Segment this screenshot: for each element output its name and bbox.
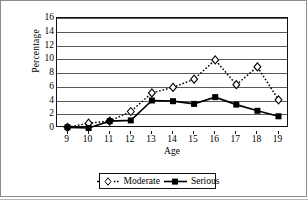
data-point-moderate [170,83,177,91]
y-axis-tick-16: 16 [24,12,54,22]
data-point-serious [212,94,218,100]
data-point-moderate [149,89,156,97]
y-axis-tick-14: 14 [24,26,54,36]
x-axis-tick-14: 14 [162,134,182,145]
x-axis-tick-19: 19 [268,134,288,145]
data-point-serious [170,98,176,104]
x-axis-tick-17: 17 [225,134,245,145]
data-point-moderate [212,56,219,64]
plot-area [56,17,288,127]
data-point-serious [107,118,113,124]
data-point-serious [128,117,134,123]
page-bottom-edge [0,199,308,206]
x-axis-tick-labels: 910111213141516171819 [56,131,288,145]
y-axis-tick-4: 4 [24,95,54,105]
x-axis-tick-16: 16 [204,134,224,145]
x-axis-tick-13: 13 [141,134,161,145]
y-axis-tick-labels: 1614121086420 [24,11,54,133]
y-axis-tick-2: 2 [24,108,54,118]
x-axis-tick-9: 9 [57,134,77,145]
x-axis-tick-18: 18 [246,134,266,145]
data-point-serious [65,124,71,130]
y-axis-tick-0: 0 [24,122,54,132]
series-line-moderate [68,60,279,127]
series-layer [57,18,289,128]
data-point-moderate [254,63,261,71]
y-axis-tick-10: 10 [24,53,54,63]
x-axis-tick-12: 12 [120,134,140,145]
legend-marker-diamond-icon [96,176,122,187]
chart-legend: Moderate Serious [99,173,216,189]
x-axis-tick-11: 11 [99,134,119,145]
y-axis-tick-6: 6 [24,81,54,91]
data-point-serious [191,101,197,107]
legend-item-moderate: Moderate [96,176,160,187]
legend-label-serious: Serious [191,176,220,186]
x-axis-tick-15: 15 [183,134,203,145]
data-point-serious [233,102,239,108]
legend-label-moderate: Moderate [124,176,160,186]
data-point-serious [254,108,260,114]
x-axis-title: Age [56,146,288,156]
data-point-serious [276,113,282,119]
legend-marker-square-icon [163,176,189,187]
y-axis-tick-8: 8 [24,67,54,77]
x-axis-tick-10: 10 [78,134,98,145]
chart-container: Percentage 1614121086420 910111213141516… [0,0,308,206]
data-point-serious [149,98,155,104]
data-point-moderate [127,108,134,116]
data-point-moderate [191,75,198,83]
legend-item-serious: Serious [163,176,220,187]
y-axis-tick-12: 12 [24,40,54,50]
